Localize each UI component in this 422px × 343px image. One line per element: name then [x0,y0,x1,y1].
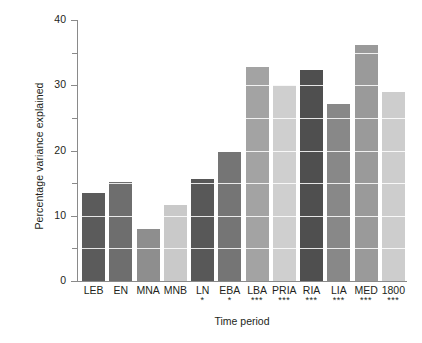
gridline [80,20,407,21]
x-axis-title: Time period [77,315,407,327]
bar [137,229,160,281]
bar [246,67,269,281]
plot-area [80,20,407,281]
x-axis-line [77,281,407,282]
y-axis-tick-major [71,216,77,217]
y-axis-tick-minor [72,118,77,119]
y-axis-tick-major [71,151,77,152]
bar [218,152,241,281]
significance-marker: *** [376,296,411,305]
y-axis-tick-minor [72,183,77,184]
y-axis-tick-major [71,281,77,282]
y-axis-tick-label: 20 [26,145,66,156]
bar [273,85,296,281]
y-axis-tick-minor [72,53,77,54]
y-axis-tick-label: 10 [26,210,66,221]
bar [109,182,132,281]
y-axis-tick-major [71,20,77,21]
y-axis-line [77,20,78,282]
bar [355,45,378,281]
y-axis-tick-label: 40 [26,14,66,25]
y-axis-tick-label: 0 [26,275,66,286]
bar [191,179,214,281]
bar [82,193,105,281]
bar [382,92,405,281]
x-axis-category-label: 1800*** [376,285,411,305]
y-axis-tick-major [71,85,77,86]
y-axis-tick-minor [72,248,77,249]
y-axis-tick-label: 30 [26,79,66,90]
bar [300,70,323,281]
bar [327,104,350,281]
y-axis-title: Percentage variance explained [33,36,45,276]
bar [164,205,187,281]
bar-chart-figure: Percentage variance explained Time perio… [0,0,422,343]
